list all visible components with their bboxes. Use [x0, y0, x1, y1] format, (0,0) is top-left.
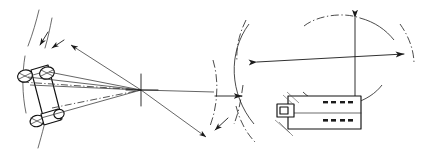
turning-circle-panel — [215, 15, 414, 143]
steering-geometry-panel — [16, 10, 217, 148]
turn-centre-crosshair — [126, 74, 158, 106]
turning-diameter-dimension-arrow — [257, 54, 404, 62]
turning-circle-arc-left — [234, 20, 256, 143]
steer-angle-arrow-inner — [52, 40, 64, 48]
turning-geometry-figure — [0, 0, 430, 159]
turning-circle-arc-top — [304, 15, 394, 40]
vehicle-body — [288, 96, 361, 129]
side-clearance-arrow — [215, 85, 243, 130]
turning-arc — [210, 60, 217, 126]
turn-radius-rays — [28, 45, 214, 137]
steer-angle-arrow-outer — [40, 32, 48, 45]
turning-circle-arc-right — [400, 24, 414, 64]
figure-root — [0, 0, 430, 159]
front-bumper-block — [277, 104, 294, 117]
